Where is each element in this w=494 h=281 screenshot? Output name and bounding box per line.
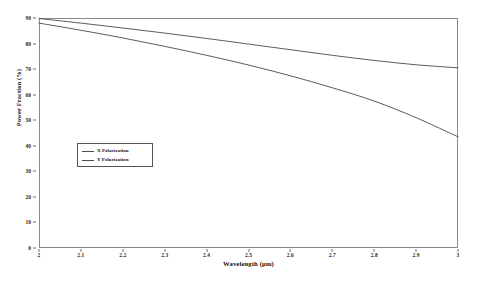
x-tick-label: 2.5	[245, 252, 252, 258]
series-line-1	[39, 23, 458, 137]
x-tick-mark	[80, 249, 81, 252]
x-axis-title: Wavelength (μm)	[39, 260, 458, 267]
series-line-0	[39, 19, 458, 68]
y-tick-label: 30	[25, 168, 31, 174]
x-tick-label: 3	[457, 252, 460, 258]
x-tick-label: 2.7	[329, 252, 336, 258]
y-tick-mark	[33, 171, 36, 172]
chart-figure: 0102030405060708090 Power Fraction (%) 2…	[0, 0, 494, 281]
legend-label: X Polarization	[97, 147, 129, 155]
x-tick-mark	[374, 249, 375, 252]
y-tick-label: 90	[25, 15, 31, 21]
x-tick-label: 2.9	[413, 252, 420, 258]
y-tick-label: 80	[25, 41, 31, 47]
x-tick-mark	[458, 249, 459, 252]
x-tick-label: 2.4	[203, 252, 210, 258]
y-tick-mark	[33, 248, 36, 249]
x-tick-label: 2.2	[119, 252, 126, 258]
y-tick-mark	[33, 69, 36, 70]
y-tick-mark	[33, 196, 36, 197]
x-tick-mark	[332, 249, 333, 252]
x-tick-label: 2.6	[287, 252, 294, 258]
x-tick-label: 2.3	[161, 252, 168, 258]
y-tick-label: 10	[25, 219, 31, 225]
y-tick-label: 20	[25, 194, 31, 200]
y-tick-mark	[33, 222, 36, 223]
y-axis-title: Power Fraction (%)	[15, 33, 22, 163]
y-tick-mark	[33, 43, 36, 44]
chart-legend: X PolarizationY Polarization	[77, 143, 153, 167]
y-tick-label: 70	[25, 66, 31, 72]
y-tick-label: 0	[28, 245, 31, 251]
x-tick-label: 2	[38, 252, 41, 258]
x-tick-mark	[206, 249, 207, 252]
y-tick-mark	[33, 18, 36, 19]
plot-lines	[39, 18, 458, 248]
x-tick-label: 2.8	[371, 252, 378, 258]
x-tick-mark	[122, 249, 123, 252]
legend-label: Y Polarization	[97, 156, 128, 164]
legend-item: Y Polarization	[82, 156, 148, 164]
x-tick-mark	[416, 249, 417, 252]
x-tick-mark	[290, 249, 291, 252]
y-tick-mark	[33, 145, 36, 146]
y-tick-mark	[33, 120, 36, 121]
legend-item: X Polarization	[82, 147, 148, 155]
x-tick-mark	[248, 249, 249, 252]
legend-line-icon	[82, 160, 94, 161]
x-tick-mark	[39, 249, 40, 252]
x-tick-label: 2.1	[77, 252, 84, 258]
y-tick-label: 60	[25, 92, 31, 98]
y-tick-label: 50	[25, 117, 31, 123]
legend-line-icon	[82, 151, 94, 152]
x-tick-mark	[164, 249, 165, 252]
y-tick-mark	[33, 94, 36, 95]
y-tick-label: 40	[25, 143, 31, 149]
